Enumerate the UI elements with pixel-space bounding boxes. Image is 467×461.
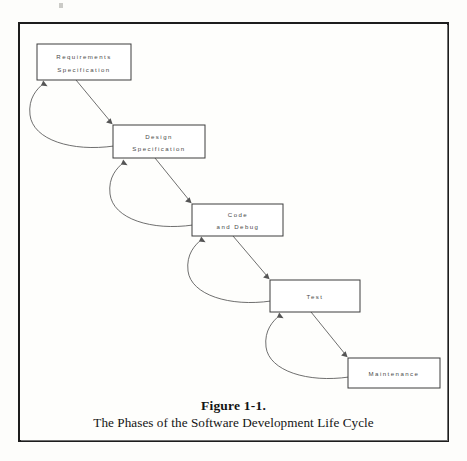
phase-box-code-and-debug[interactable]: Code and Debug bbox=[192, 204, 283, 236]
phase-box-design[interactable]: Design Specification bbox=[113, 125, 205, 158]
waterfall-diagram: Requirements Specification Design Specif… bbox=[0, 0, 467, 461]
figure-caption-subtitle: The Phases of the Software Development L… bbox=[18, 415, 449, 431]
phase-box-maintenance[interactable]: Maintenance bbox=[348, 358, 440, 388]
feedback-arrow-code-to-design bbox=[110, 160, 193, 227]
phase-label-requirements-line1: Requirements bbox=[56, 53, 111, 60]
phase-label-maintenance: Maintenance bbox=[369, 370, 420, 377]
phase-label-design-line1: Design bbox=[145, 133, 173, 140]
feedback-arrow-test-to-code bbox=[188, 237, 271, 303]
feedback-arrow-design-to-requirements bbox=[30, 81, 114, 148]
phase-label-requirements-line2: Specification bbox=[57, 66, 110, 73]
figure-caption-title: Figure 1-1. bbox=[18, 398, 449, 414]
phase-label-design-line2: Specification bbox=[132, 145, 185, 152]
phase-box-requirements[interactable]: Requirements Specification bbox=[37, 44, 131, 80]
phase-box-test[interactable]: Test bbox=[270, 280, 360, 312]
flow-arrow-code-to-test bbox=[233, 236, 270, 279]
phase-label-code-line2: and Debug bbox=[217, 223, 260, 230]
phase-label-code-line1: Code bbox=[228, 211, 248, 218]
flow-arrow-test-to-maintenance bbox=[311, 312, 348, 357]
phase-label-test: Test bbox=[307, 293, 324, 300]
figure-page: Requirements Specification Design Specif… bbox=[0, 0, 467, 461]
flow-arrow-requirements-to-design bbox=[76, 80, 113, 124]
flow-arrow-design-to-code bbox=[155, 158, 192, 203]
feedback-arrow-maintenance-to-test bbox=[266, 313, 349, 379]
